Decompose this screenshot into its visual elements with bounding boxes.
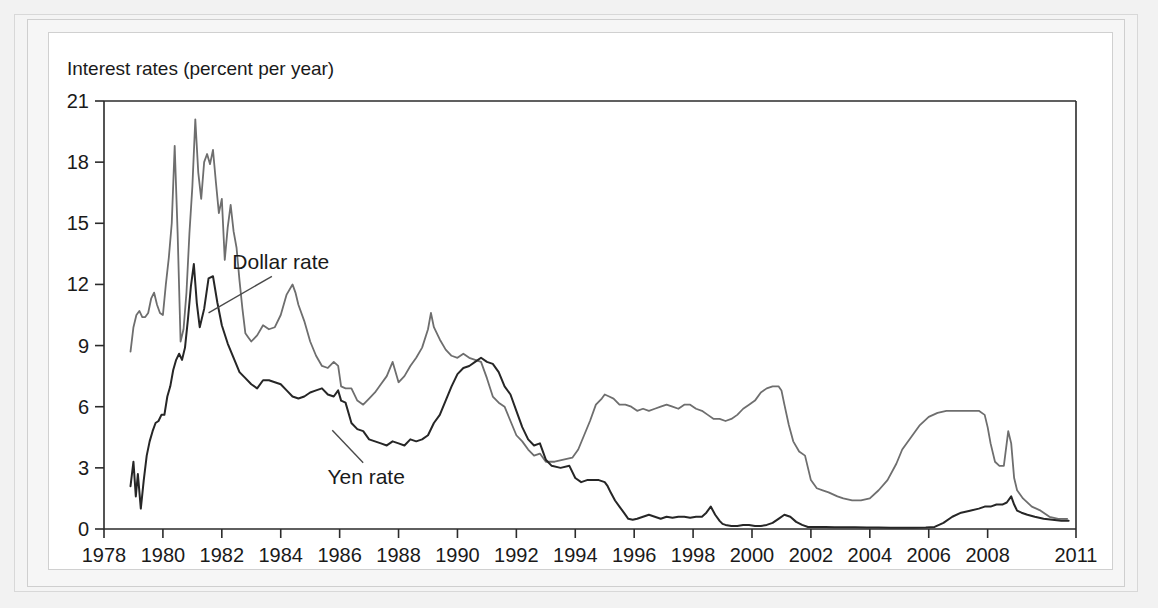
dollar-rate-annotation-label: Dollar rate	[232, 250, 329, 273]
x-tick-label: 2004	[848, 544, 893, 566]
y-tick-label: 18	[67, 151, 89, 173]
figure-card: Interest rates (percent per year) 036912…	[48, 32, 1113, 570]
y-tick-label: 12	[67, 273, 89, 295]
series-line-dollar-rate	[131, 119, 1068, 518]
x-tick-label: 1992	[494, 544, 539, 566]
series-lines	[131, 119, 1069, 527]
yen-rate-annotation-leader-line	[332, 430, 363, 463]
x-tick-label: 1988	[376, 544, 421, 566]
y-tick-label: 9	[78, 335, 89, 357]
x-tick-label: 2006	[906, 544, 951, 566]
x-tick-label: 1982	[200, 544, 245, 566]
y-tick-label: 6	[78, 396, 89, 418]
x-tick-label: 1994	[553, 544, 598, 566]
x-tick-label: 2008	[965, 544, 1010, 566]
y-tick-label: 0	[78, 518, 89, 540]
x-axis: 1978198019821984198619881990199219941996…	[82, 529, 1098, 566]
y-tick-label: 21	[67, 90, 89, 112]
y-tick-label: 15	[67, 212, 89, 234]
x-tick-label: 1984	[258, 544, 303, 566]
x-tick-label: 1996	[612, 544, 657, 566]
axis-spines	[104, 101, 1076, 529]
x-tick-label: 2002	[789, 544, 834, 566]
x-tick-label: 1998	[671, 544, 716, 566]
chart-title: Interest rates (percent per year)	[67, 58, 334, 79]
x-tick-label: 1980	[141, 544, 186, 566]
series-line-yen-rate	[131, 264, 1069, 528]
axis-frame-lines	[104, 101, 1076, 529]
yen-rate-annotation-label: Yen rate	[327, 465, 404, 488]
x-tick-label: 1990	[435, 544, 480, 566]
y-tick-label: 3	[78, 457, 89, 479]
y-axis: 036912151821	[67, 90, 104, 540]
x-tick-label: 2000	[730, 544, 775, 566]
x-tick-label: 2011	[1054, 544, 1097, 566]
interest-rates-line-chart: Interest rates (percent per year) 036912…	[49, 33, 1112, 569]
figure-root: Interest rates (percent per year) 036912…	[0, 0, 1158, 608]
x-tick-label: 1986	[317, 544, 362, 566]
x-tick-label: 1978	[82, 544, 127, 566]
